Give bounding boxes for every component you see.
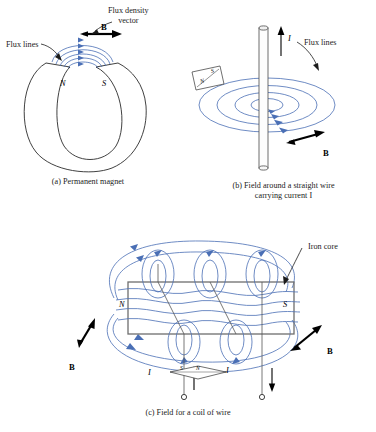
b-vector-arrow-b [286,130,325,145]
figure-root: Flux lines Flux density vector B N S (a)… [0,0,376,432]
outer-flux-loop-group [107,241,298,372]
wire-bottom-cap [259,166,268,170]
coil-arrowhead [258,250,266,257]
outer-flux-arrowhead [134,334,144,340]
iron-core-rect [128,282,294,334]
panel-c-current-label-right: I [226,366,229,375]
flux-ring-arrowhead-group [268,109,288,133]
flux-ring-arrowhead [274,120,283,126]
panel-c-caption: (c) Field for a coil of wire [98,408,278,418]
panel-a-b-label: B [101,22,107,32]
panel-b-flux-lines-label: Flux lines [304,38,337,48]
panel-c-compass-south-label: S [180,365,183,371]
outer-flux-arrowhead [126,343,136,350]
internal-flux-line [118,288,298,295]
wire-top-cap [259,26,268,30]
flux-arrowhead [78,44,84,49]
panel-c-iron-core-label: Iron core [308,242,338,252]
b-vector-arrow-left-c [77,318,95,348]
flux-ring-arrowhead [271,114,279,119]
magnet-inner-outline [57,67,122,160]
panel-a-south-pole-label: S [102,79,106,88]
panel-c-south-pole-label: S [283,300,287,309]
current-arrow-b [278,26,285,56]
leader-iron-core-c [283,248,302,285]
panel-c-north-pole-label: N [119,300,125,309]
panel-b-b-label: B [323,148,329,158]
panel-b-current-label: I [288,34,291,43]
outer-flux-loop-bottom [107,314,298,372]
flux-arc [68,62,98,68]
terminal-circle-left [181,394,186,399]
terminal-circle-right [259,394,264,399]
panel-a-flux-density-label: Flux density vector [108,6,149,26]
coil-arrowhead [206,250,214,257]
magnet-outer-outline [24,63,146,172]
panel-a-caption: (a) Permanent magnet [8,177,168,187]
panel-b-caption: (b) Field around a straight wire carryin… [196,181,371,202]
internal-flux-line-group [116,288,300,325]
panel-c-b-label-left: B [69,362,75,372]
compass-card-b [192,66,224,90]
coil-flux-loop-inner [228,325,244,355]
panel-c-compass-north-label: N [196,365,200,371]
panel-c-b-label-right: B [327,346,333,356]
internal-flux-line [116,308,300,315]
internal-flux-line [116,298,300,305]
flux-arrowhead [78,38,84,43]
panel-b-graphic [185,0,376,178]
panel-c-current-label-left: I [148,368,151,377]
wire-cylinder [259,26,268,170]
panel-a-flux-lines-label: Flux lines [6,40,39,50]
panel-a-graphic [0,0,190,185]
flux-ring-arrowhead [279,128,288,134]
internal-flux-line [118,318,298,325]
current-arrow-right-c [269,368,275,392]
b-vector-arrow-right-c [290,325,322,351]
panel-a-north-pole-label: N [60,79,66,88]
flux-arrowhead [78,56,84,61]
coil-flux-loop-inner [202,260,218,292]
